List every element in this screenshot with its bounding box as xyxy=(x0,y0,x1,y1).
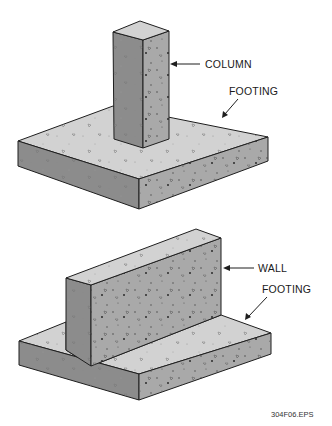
wall-footing-label: FOOTING xyxy=(262,284,311,295)
column-label: COLUMN xyxy=(205,59,252,70)
column-footing-diagram xyxy=(18,21,268,209)
wall-footing-diagram xyxy=(19,229,271,400)
column-footing-label: FOOTING xyxy=(229,86,278,97)
wall-label: WALL xyxy=(258,263,287,274)
diagram-canvas xyxy=(0,0,332,426)
column-arrow-icon xyxy=(170,61,177,67)
wall-footing-arrow-icon xyxy=(245,313,251,320)
wall-footing-leader-line xyxy=(249,297,267,316)
column-footing-leader-line xyxy=(225,99,238,114)
wall-arrow-icon xyxy=(223,265,230,271)
file-reference: 304F06.EPS xyxy=(271,411,314,419)
